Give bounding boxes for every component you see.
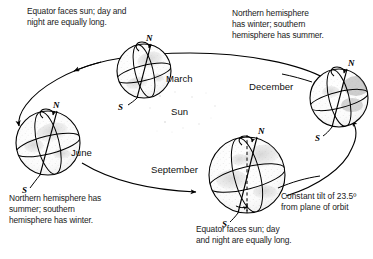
caption-december-top-right: Northern hemisphere has winter; southern…: [232, 8, 362, 41]
season-label-march: March: [166, 73, 193, 84]
seasons-diagram: Equator faces sun; day and night are equ…: [0, 0, 373, 259]
season-label-december: December: [249, 81, 293, 92]
pole-label-south-december: S: [315, 133, 320, 143]
caption-march-top-left: Equator faces sun; day and night are equ…: [27, 6, 187, 28]
caption-axial-tilt: Constant tilt of 23.5º from plane of orb…: [281, 191, 373, 213]
sun-label: Sun: [171, 106, 188, 117]
pole-label-south-june: S: [22, 185, 27, 195]
pole-label-north-september: N: [258, 126, 265, 136]
pole-label-north-december: N: [348, 58, 355, 68]
pole-label-north-march: N: [146, 33, 153, 43]
season-label-june: June: [71, 147, 92, 158]
globe-december: [282, 67, 370, 136]
pole-label-north-june: N: [53, 100, 60, 110]
caption-june-bottom-left: Northern hemisphere has summer; southern…: [9, 193, 169, 226]
pole-label-south-march: S: [118, 102, 123, 112]
globe-march: [115, 42, 173, 105]
pole-label-south-september: S: [222, 219, 227, 229]
orbit-arc-right: [286, 121, 356, 196]
season-label-september: September: [151, 164, 198, 175]
